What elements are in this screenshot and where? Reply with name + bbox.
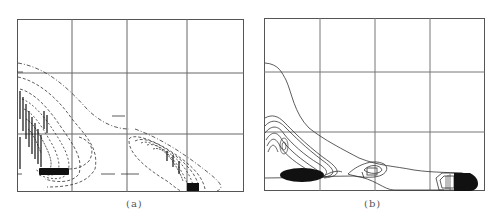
contour-plot-b-graphic bbox=[264, 18, 485, 191]
contour-plot-b bbox=[264, 18, 485, 191]
contour-plot-a-graphic bbox=[17, 19, 244, 192]
caption-b: (b) bbox=[364, 198, 381, 209]
contour-plot-a bbox=[17, 19, 244, 192]
caption-a: (a) bbox=[126, 198, 143, 209]
